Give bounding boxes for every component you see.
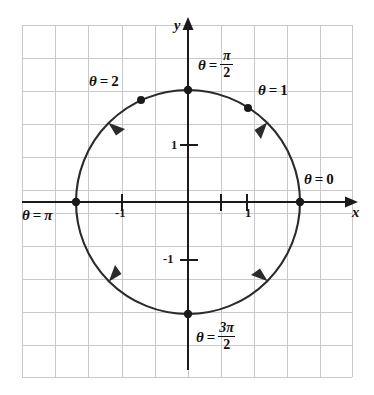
label-theta-pi: θ = π	[22, 208, 53, 223]
point-theta-1	[244, 104, 252, 112]
fraction-numerator: 3π	[218, 321, 235, 335]
label-theta-0: θ = 0	[304, 172, 334, 187]
fraction-pi-over-2: π 2	[220, 49, 233, 80]
label-theta-1: θ = 1	[258, 83, 288, 98]
fraction-denominator: 2	[222, 66, 231, 80]
point-theta-pi-over-2	[184, 86, 192, 94]
x-axis-label: x	[352, 205, 359, 220]
equals-sign: =	[269, 83, 278, 98]
y-axis-label: y	[174, 18, 180, 33]
point-theta-3pi-over-2	[184, 310, 192, 318]
label-theta-pi-over-2: θ = π 2	[198, 50, 233, 81]
equals-sign: =	[207, 330, 216, 345]
point-theta-0	[296, 198, 304, 206]
label-theta-2: θ = 2	[89, 74, 119, 89]
theta-value: 0	[326, 172, 334, 187]
theta-symbol: θ	[22, 208, 30, 223]
theta-symbol: θ	[196, 330, 204, 345]
theta-symbol: θ	[198, 58, 206, 73]
theta-value: 2	[111, 74, 119, 89]
theta-value: 1	[280, 83, 288, 98]
theta-value: π	[44, 208, 52, 223]
x-tick-label-1: 1	[245, 207, 251, 220]
equals-sign: =	[315, 172, 324, 187]
theta-symbol: θ	[258, 83, 266, 98]
equals-sign: =	[33, 208, 42, 223]
polar-circle-figure: θ = π 2 θ = 2 θ = 1 θ = 0 θ = π θ = 3π	[0, 0, 374, 395]
direction-arrow-q3	[108, 265, 122, 283]
equals-sign: =	[100, 74, 109, 89]
fraction-numerator: π	[222, 49, 232, 63]
theta-symbol: θ	[304, 172, 312, 187]
point-theta-2	[137, 96, 145, 104]
theta-symbol: θ	[89, 74, 97, 89]
plot-canvas	[0, 0, 374, 395]
fraction-denominator: 2	[222, 338, 231, 352]
y-tick-label-1: 1	[171, 139, 177, 152]
equals-sign: =	[209, 58, 218, 73]
y-tick-label-minus-1: -1	[163, 253, 173, 266]
x-tick-label-minus-1: -1	[115, 207, 125, 220]
label-theta-3pi-over-2: θ = 3π 2	[196, 322, 235, 353]
fraction-3pi-over-2: 3π 2	[218, 321, 235, 352]
point-theta-pi	[72, 198, 80, 206]
